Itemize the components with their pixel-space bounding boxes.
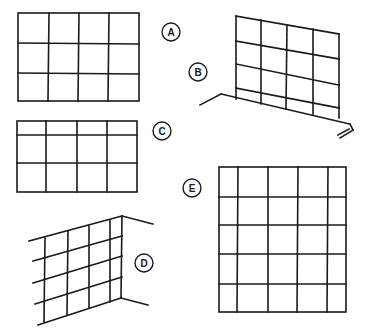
figure-a-grid (18, 13, 139, 101)
figure-e-badge: E (183, 179, 201, 197)
figure-a-col-line (78, 13, 79, 101)
figure-d-badge: D (135, 254, 153, 272)
figure-e-label: E (189, 183, 196, 194)
figure-b-row-line (236, 88, 339, 108)
figure-b-badge: B (189, 63, 207, 81)
figure-b-row-line (236, 64, 339, 85)
figure-d-row-line (38, 298, 121, 325)
figure-a-row-line (18, 73, 139, 74)
figure-b-grid (200, 16, 353, 138)
figure-e-col-line (237, 167, 238, 312)
figure-b-base-left (200, 94, 221, 105)
figure-c-badge: C (153, 122, 171, 140)
figure-c-label: C (158, 126, 165, 137)
figure-a-label: A (167, 27, 174, 38)
figure-e-col-line (327, 167, 328, 312)
figure-a-col-line (48, 13, 49, 101)
figure-d-row-line (35, 277, 122, 304)
figure-a-row-line (18, 43, 139, 44)
figure-d-corner-edge (121, 216, 122, 298)
figure-d-col-line (67, 231, 68, 315)
figure-d-row-line (33, 236, 122, 261)
figure-b-label: B (194, 67, 201, 78)
figure-d-side-bottom (121, 298, 148, 305)
figure-d-row-line (29, 216, 122, 241)
figure-d-col-line (44, 238, 45, 322)
figure-d-side-top (122, 216, 153, 224)
figure-b-base-right (350, 124, 353, 130)
figure-e-col-line (297, 167, 298, 312)
figure-c-grid (17, 121, 137, 192)
figure-a-badge: A (162, 23, 180, 41)
figure-d-grid (29, 216, 153, 325)
figure-d-label: D (140, 258, 147, 269)
figure-d-row-line (33, 256, 122, 283)
figure-b-col-line (286, 25, 287, 109)
figure-e-grid (219, 167, 346, 312)
grid-diagram: A B C (0, 0, 368, 336)
figure-a-col-line (108, 13, 109, 101)
